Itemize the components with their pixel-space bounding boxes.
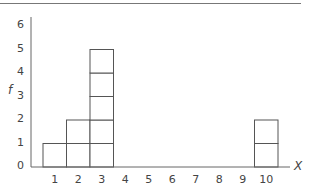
x-tick-label: 2 [68, 174, 88, 185]
histogram-unit-box [67, 144, 91, 168]
histogram-unit-box [255, 144, 279, 168]
x-axis-title: X [294, 160, 302, 172]
histogram-unit-box [43, 144, 67, 168]
y-tick-label: 2 [12, 113, 24, 124]
x-tick-label: 5 [139, 174, 159, 185]
x-tick-label: 1 [45, 174, 65, 185]
y-tick-label: 3 [12, 90, 24, 101]
histogram-unit-box [255, 120, 279, 144]
x-tick-label: 10 [256, 174, 276, 185]
x-tick-label: 7 [186, 174, 206, 185]
x-tick-label: 9 [233, 174, 253, 185]
y-tick-label: 4 [12, 66, 24, 77]
y-tick-label: 0 [12, 160, 24, 171]
x-tick-label: 6 [162, 174, 182, 185]
bars [43, 50, 278, 168]
histogram-unit-box [67, 120, 91, 144]
histogram-unit-box [90, 120, 114, 144]
y-axis-title: f [8, 84, 12, 96]
y-tick-label: 5 [12, 43, 24, 54]
histogram-unit-box [90, 50, 114, 74]
histogram-unit-box [90, 97, 114, 121]
y-tick-label: 1 [12, 137, 24, 148]
histogram-unit-box [90, 73, 114, 97]
x-tick-label: 3 [92, 174, 112, 185]
x-tick-label: 4 [115, 174, 135, 185]
histogram-plot [0, 0, 317, 193]
histogram-unit-box [90, 144, 114, 168]
x-tick-label: 8 [209, 174, 229, 185]
y-tick-label: 6 [12, 19, 24, 30]
